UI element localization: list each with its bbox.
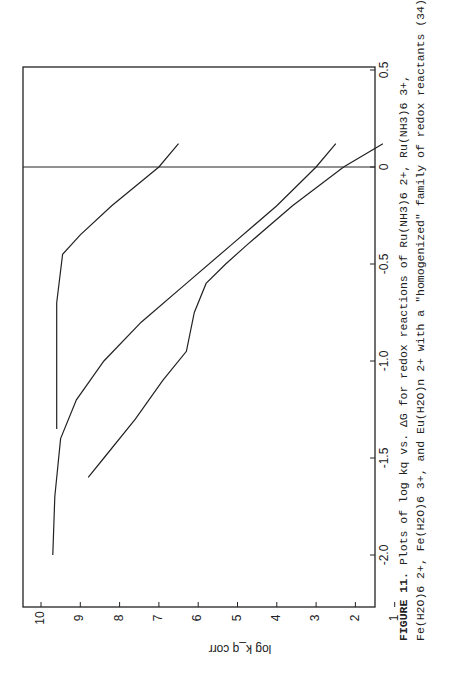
y-tick-label: 3 (308, 614, 322, 621)
caption-text-2: Fe(H2O)6 2+, Fe(H2O)6 3+, and Eu(H2O)n 2… (414, 0, 427, 641)
caption-text-1: Plots of log kq vs. ΔG for redox reactio… (397, 75, 410, 565)
fit-curves (53, 144, 383, 555)
x-tick-label: -1.0 (377, 350, 391, 371)
fit-curve (88, 144, 383, 478)
plot-frame (23, 67, 375, 607)
x-tick-label: -1.5 (377, 447, 391, 468)
plot-border (23, 67, 375, 607)
y-tick-label: 9 (72, 614, 86, 621)
y-tick-label: 5 (230, 614, 244, 621)
x-tick-label: -2.0 (377, 544, 391, 565)
y-tick-label: 8 (112, 614, 126, 621)
axis-ticks: 12345678910-2.0-1.5-1.0-0.500.5log k_q c… (33, 61, 401, 656)
y-tick-label: 4 (269, 614, 283, 621)
figure-caption-rotated: FIGURE 11. Plots of log kq vs. ΔG for re… (395, 0, 429, 681)
caption-line-1: FIGURE 11. Plots of log kq vs. ΔG for re… (395, 0, 412, 681)
x-tick-label: 0.5 (377, 61, 391, 78)
y-tick-label: 2 (348, 614, 362, 621)
y-tick-label: 10 (33, 611, 47, 625)
x-tick-label: 0 (377, 163, 391, 170)
x-tick-label: -0.5 (377, 253, 391, 274)
caption-line-2: Fe(H2O)6 2+, Fe(H2O)6 3+, and Eu(H2O)n 2… (412, 0, 429, 681)
y-tick-label: 7 (151, 614, 165, 621)
chart: 12345678910-2.0-1.5-1.0-0.500.5log k_q c… (0, 0, 450, 681)
y-axis-label: log k_q corr (209, 642, 272, 656)
fit-curve (57, 144, 179, 429)
y-tick-label: 6 (190, 614, 204, 621)
caption-label: FIGURE 11. (397, 572, 410, 641)
